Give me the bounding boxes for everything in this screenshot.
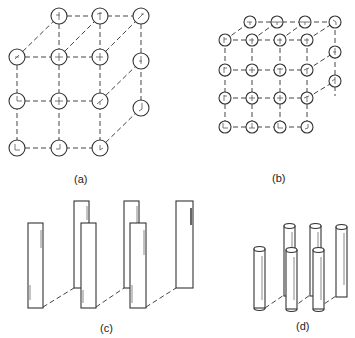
panel-b-lattice	[219, 16, 341, 133]
panel-a-lattice	[9, 8, 149, 156]
panel-c-label: (c)	[100, 322, 113, 334]
panel-c-plates	[28, 201, 193, 308]
panel-d-rods	[254, 224, 347, 312]
diagram-canvas: .dash { stroke: #444; stroke-width: 1; s…	[0, 0, 355, 338]
panel-b-front-sites	[219, 34, 313, 133]
panel-d-label: (d)	[296, 320, 309, 332]
panel-b-label: (b)	[272, 172, 285, 184]
panel-a-label: (a)	[74, 173, 87, 185]
